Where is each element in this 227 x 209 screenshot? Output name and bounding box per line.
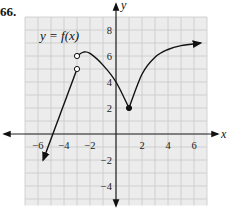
function-label: y = f(x) <box>38 28 79 43</box>
y-tick-label: 6 <box>107 51 112 62</box>
open-circle-point <box>74 53 79 58</box>
x-axis-label: x <box>220 127 227 141</box>
x-tick-label: 4 <box>165 140 171 151</box>
y-tick-label: 4 <box>107 77 113 88</box>
y-tick-label: −4 <box>101 181 113 192</box>
function-graph: xy−6−4−2246−4−22468y = f(x) <box>0 0 227 209</box>
open-circle-point <box>74 66 79 71</box>
x-tick-label: −2 <box>84 140 95 151</box>
x-tick-label: 2 <box>139 140 144 151</box>
y-tick-label: −2 <box>101 155 112 166</box>
y-axis-label: y <box>120 0 127 12</box>
x-tick-label: 6 <box>191 140 196 151</box>
x-tick-label: −4 <box>58 140 70 151</box>
closed-dot-point <box>126 105 131 110</box>
x-tick-label: −6 <box>32 140 43 151</box>
y-tick-label: 2 <box>107 103 112 114</box>
y-tick-label: 8 <box>107 25 112 36</box>
